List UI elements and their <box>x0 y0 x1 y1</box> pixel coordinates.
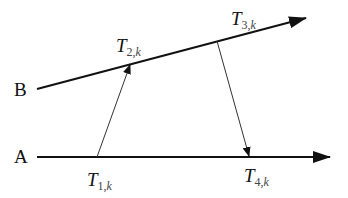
node-label-b: B <box>14 79 27 100</box>
timing-diagram: B A T2,k T3,k T1,k T4,k <box>0 0 348 198</box>
timestamp-sub-k: k <box>264 175 270 189</box>
node-label-a: A <box>14 146 28 167</box>
timestamp-sub-k: k <box>136 45 142 59</box>
message-arrow-b-to-a <box>217 41 249 156</box>
timestamp-label-t2: T2,k <box>116 35 142 59</box>
timestamp-sub-k: k <box>107 179 113 193</box>
timestamp-label-t4: T4,k <box>244 165 270 189</box>
timestamp-label-t3: T3,k <box>231 8 257 32</box>
timestamp-sub-num: 1, <box>98 179 107 193</box>
message-arrow-a-to-b <box>97 65 130 157</box>
timestamp-sub-num: 3, <box>242 18 251 32</box>
timeline-b <box>37 18 306 89</box>
timestamp-sub-num: 2, <box>127 45 136 59</box>
timestamp-sub-k: k <box>251 18 257 32</box>
timestamp-label-t1: T1,k <box>87 169 113 193</box>
timestamp-sub-num: 4, <box>255 175 264 189</box>
